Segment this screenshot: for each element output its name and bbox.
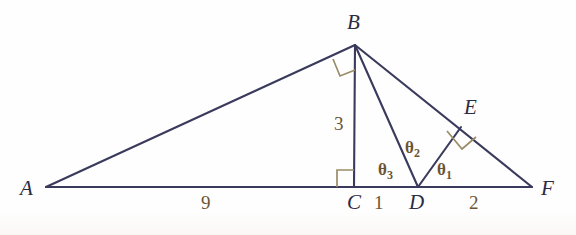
theta-symbol-1: θ bbox=[437, 160, 446, 179]
vertex-label-D: D bbox=[409, 192, 424, 213]
length-label-3: 3 bbox=[334, 114, 344, 133]
vertex-label-C: C bbox=[347, 192, 361, 213]
angle-label-theta-2: θ2 bbox=[405, 139, 420, 159]
theta-subscript-3: 3 bbox=[387, 168, 393, 182]
length-label-2: 2 bbox=[469, 193, 479, 212]
geometry-figure: A B C D E F 9 3 1 2 θ3 θ2 θ1 bbox=[0, 0, 576, 235]
theta-subscript-2: 2 bbox=[414, 146, 420, 160]
right-angle-at-B-icon bbox=[333, 59, 355, 76]
segment-A-B bbox=[46, 45, 355, 187]
theta-subscript-1: 1 bbox=[446, 168, 452, 182]
vertex-label-A: A bbox=[20, 178, 33, 199]
segment-B-C bbox=[354, 45, 355, 187]
vertex-label-F: F bbox=[541, 178, 554, 199]
figure-canvas bbox=[0, 0, 576, 235]
theta-symbol-2: θ bbox=[405, 138, 414, 157]
theta-symbol-3: θ bbox=[378, 160, 387, 179]
vertex-label-B: B bbox=[347, 12, 360, 33]
angle-label-theta-3: θ3 bbox=[378, 161, 393, 181]
length-label-9: 9 bbox=[201, 193, 211, 212]
angle-label-theta-1: θ1 bbox=[437, 161, 452, 181]
length-label-1: 1 bbox=[374, 193, 384, 212]
right-angle-at-C-icon bbox=[337, 170, 354, 187]
vertex-label-E: E bbox=[464, 97, 477, 118]
segments-group bbox=[46, 45, 532, 187]
